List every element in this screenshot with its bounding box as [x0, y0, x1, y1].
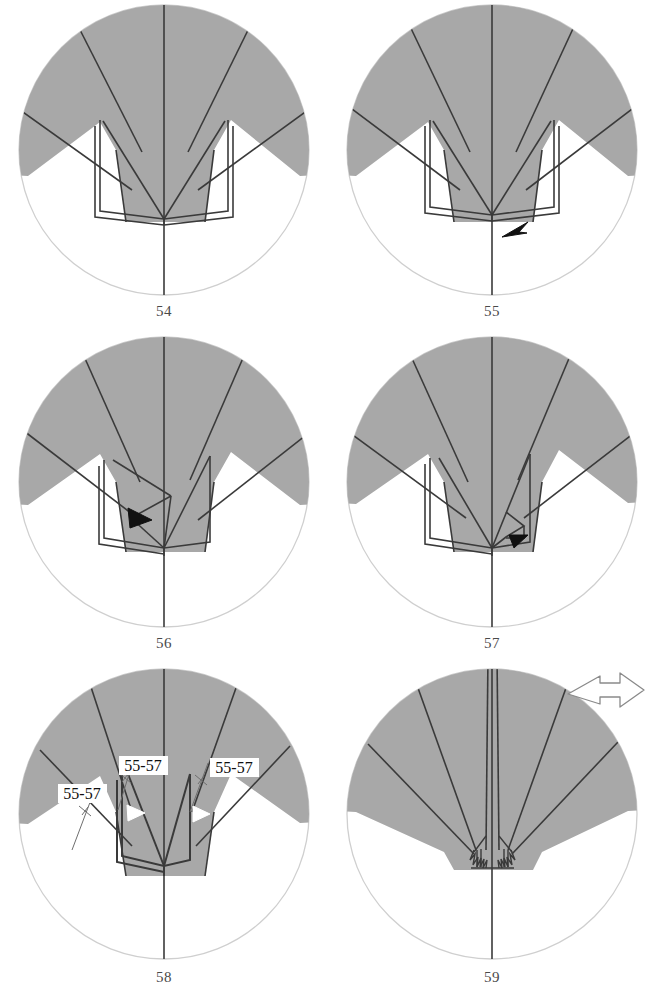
solid-arrowhead-icon	[502, 222, 528, 237]
repeat-label-left: 55-57	[58, 784, 107, 803]
crease-lines-57	[346, 332, 638, 632]
diagram-panel-56: 56	[0, 332, 328, 664]
fold-arrow-55	[502, 222, 528, 237]
diagram-panel-55: 55	[328, 0, 656, 332]
panel-number-58: 58	[0, 969, 328, 986]
panel-number-55: 55	[328, 303, 656, 320]
repeat-label-text: 55-57	[124, 757, 161, 774]
panel-figure-55	[328, 0, 656, 300]
repeat-label-top-right: 55-57	[210, 758, 259, 777]
panel-number-56: 56	[0, 635, 328, 652]
repeat-label-text: 55-57	[63, 785, 100, 802]
panel-figure-59	[328, 664, 656, 964]
panel-number-54: 54	[0, 303, 328, 320]
panel-figure-57	[328, 332, 656, 632]
repeat-label-text: 55-57	[215, 759, 252, 776]
origami-diagram-page: 54	[0, 0, 656, 998]
diagram-panel-59: 59	[328, 664, 656, 998]
panel-number-57: 57	[328, 635, 656, 652]
panel-figure-56	[0, 332, 328, 632]
hollow-arrowhead-icon	[93, 843, 110, 859]
repeat-label-top-left: 55-57	[119, 756, 168, 775]
panel-number-59: 59	[328, 969, 656, 986]
diagram-panel-57: 57	[328, 332, 656, 664]
diagram-panel-54: 54	[0, 0, 328, 332]
panel-grid: 54	[0, 0, 656, 998]
diagram-panel-58: 55-57 55-57 55-57 58	[0, 664, 328, 998]
panel-figure-54	[0, 0, 328, 300]
panel-figure-58: 55-57 55-57 55-57	[0, 664, 328, 964]
